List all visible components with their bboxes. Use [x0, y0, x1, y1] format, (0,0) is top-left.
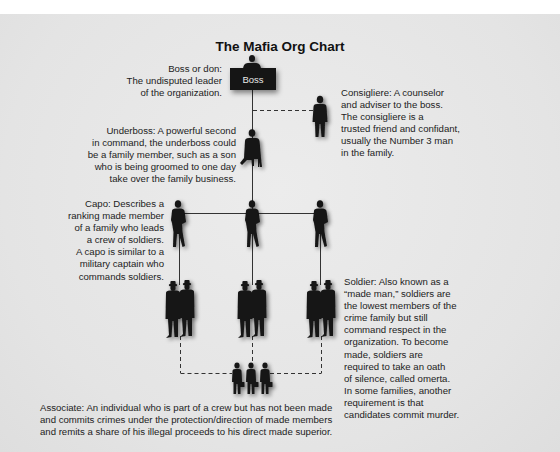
connector-lines [180, 90, 321, 285]
associate-figures [232, 363, 273, 395]
underboss-description: Underboss: A powerful second in command,… [60, 125, 236, 185]
soldier-description: Soldier: Also known as a “made man,” sol… [344, 276, 524, 421]
boss-box-label: Boss [242, 74, 263, 85]
consigliere-description: Consigliere: A counselor and adviser to … [341, 87, 521, 160]
soldier-figure-icon [252, 280, 267, 337]
capo-figures [171, 200, 328, 247]
soldier-figure-icon [238, 281, 253, 338]
soldier-figure-icon [166, 281, 181, 338]
soldier-figure-icon [180, 280, 195, 337]
soldier-figures [166, 280, 336, 338]
associate-figure-icon [260, 363, 273, 395]
capo-figure-icon [171, 200, 186, 247]
underboss-figure-icon [240, 129, 262, 167]
capo-description: Capo: Describes a ranking made member of… [40, 198, 164, 283]
soldier-figure-icon [307, 281, 322, 338]
associate-figure-icon [246, 363, 259, 395]
associate-figure-icon [232, 363, 245, 395]
soldier-figure-icon [321, 280, 336, 337]
associate-description: Associate: An individual who is part of … [40, 402, 360, 438]
boss-description: Boss or don: The undisputed leader of th… [100, 63, 222, 99]
boss-box: Boss [230, 68, 276, 90]
consigliere-figure-icon [313, 96, 328, 137]
